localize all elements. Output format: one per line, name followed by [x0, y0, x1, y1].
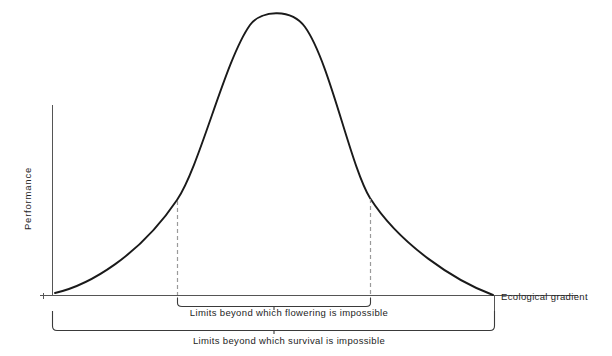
figure-canvas: [0, 0, 612, 356]
performance-curve: [55, 13, 493, 295]
x-axis-label: Ecological gradient: [501, 291, 588, 302]
flowering-limits-caption: Limits beyond which flowering is impossi…: [0, 307, 578, 318]
y-axis-label: Performance: [22, 144, 33, 254]
survival-limits-caption: Limits beyond which survival is impossib…: [0, 335, 578, 346]
flowering-limits-bracket: [178, 298, 371, 307]
performance-gradient-figure: Performance Ecological gradient Limits b…: [0, 0, 612, 356]
